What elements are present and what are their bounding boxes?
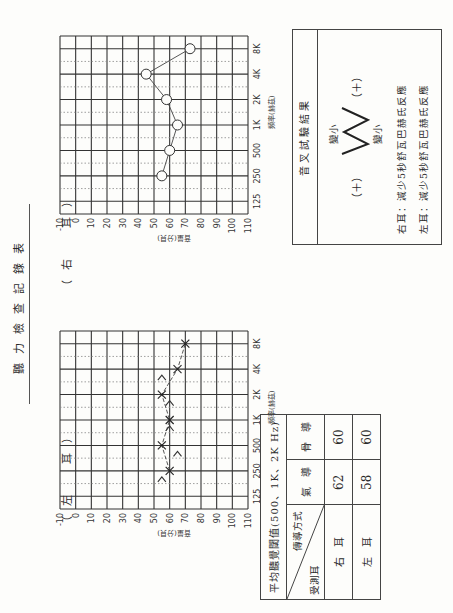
- svg-text:30: 30: [119, 513, 128, 523]
- svg-text:2K: 2K: [253, 94, 262, 105]
- svg-text:60: 60: [166, 218, 175, 228]
- svg-text:110: 110: [244, 513, 253, 528]
- svg-text:8K: 8K: [253, 338, 262, 349]
- svg-text:90: 90: [213, 513, 222, 523]
- tuning-fork-title: 音叉試驗結果: [293, 30, 318, 244]
- svg-text:4K: 4K: [253, 68, 262, 79]
- svg-text:125: 125: [253, 194, 262, 209]
- table-title: 平均聽覺閾值(500、1K、2K Hz): [261, 415, 287, 600]
- row-air: 62: [325, 460, 353, 505]
- audiogram-svg: -1001020304050607080901001101252505001K2…: [55, 321, 284, 543]
- svg-text:8K: 8K: [253, 43, 262, 54]
- svg-text:40: 40: [134, 513, 143, 523]
- svg-text:100: 100: [228, 218, 237, 233]
- svg-text:10: 10: [87, 513, 96, 523]
- left-ear-tuning-result: 左耳：減少5秒舒瓦巴赫氏反應: [416, 84, 430, 234]
- plus-left-label: （＋）: [348, 171, 364, 204]
- row-bone: 60: [325, 415, 353, 460]
- col-header-bone: 骨 導: [287, 415, 325, 460]
- svg-text:500: 500: [253, 143, 262, 158]
- svg-text:頻率(赫茲): 頻率(赫茲): [267, 95, 276, 129]
- plus-right-label: （＋）: [348, 71, 364, 104]
- svg-text:250: 250: [253, 168, 262, 183]
- svg-text:1K: 1K: [253, 119, 262, 130]
- col-header-air: 氣 導: [287, 460, 325, 505]
- svg-text:110: 110: [244, 218, 253, 233]
- svg-text:-10: -10: [56, 218, 65, 231]
- tuning-fork-weber-icon: [338, 106, 370, 156]
- audiogram-svg: -1001020304050607080901001101252505001K2…: [55, 26, 284, 248]
- right-ear-audiogram: -1001020304050607080901001101252505001K2…: [55, 26, 284, 248]
- svg-text:80: 80: [197, 218, 206, 228]
- svg-text:4K: 4K: [253, 363, 262, 374]
- svg-text:30: 30: [119, 218, 128, 228]
- svg-text:-10: -10: [56, 513, 65, 526]
- svg-text:50: 50: [150, 513, 159, 523]
- svg-text:10: 10: [87, 218, 96, 228]
- svg-text:90: 90: [213, 218, 222, 228]
- svg-text:80: 80: [197, 513, 206, 523]
- row-bone: 60: [353, 415, 381, 460]
- svg-text:100: 100: [228, 513, 237, 528]
- svg-text:70: 70: [181, 218, 190, 228]
- svg-text:40: 40: [134, 218, 143, 228]
- left-ear-audiogram: -1001020304050607080901001101252505001K2…: [55, 321, 284, 543]
- svg-text:2K: 2K: [253, 389, 262, 400]
- svg-text:音量(分貝): 音量(分貝): [157, 529, 191, 538]
- table-row: 左 耳 58 60: [353, 415, 381, 600]
- diagonal-header-cell: 傳導方式 受測耳: [287, 505, 325, 600]
- tuning-fork-body: 變小 （＋） （＋） 變小 右耳：減少5秒舒瓦巴赫氏反應 左耳：減少5秒舒瓦巴赫…: [318, 30, 441, 244]
- smaller-bottom-label: 變小: [370, 124, 384, 144]
- svg-text:音量(分貝): 音量(分貝): [157, 234, 191, 243]
- diag-top-label: 傳導方式: [290, 511, 304, 551]
- row-ear: 右 耳: [325, 505, 353, 600]
- table-row: 右 耳 62 60: [325, 415, 353, 600]
- row-air: 58: [353, 460, 381, 505]
- average-threshold-table: 平均聽覺閾值(500、1K、2K Hz) 傳導方式 受測耳 氣 導 骨 導 右 …: [260, 414, 381, 600]
- right-ear-tuning-result: 右耳：減少5秒舒瓦巴赫氏反應: [394, 84, 408, 234]
- svg-text:70: 70: [181, 513, 190, 523]
- svg-text:50: 50: [150, 218, 159, 228]
- audiometry-record-form: 聽力檢查記錄表 （左 耳） （右 耳） -1001020304050607080…: [0, 0, 453, 613]
- svg-text:20: 20: [103, 513, 112, 523]
- svg-text:0: 0: [72, 513, 81, 518]
- svg-text:20: 20: [103, 218, 112, 228]
- page-title: 聽力檢查記錄表: [10, 204, 30, 404]
- tuning-fork-result-box: 音叉試驗結果 變小 （＋） （＋） 變小 右耳：減少5秒舒瓦巴赫氏反應 左耳：減…: [292, 29, 442, 245]
- svg-text:0: 0: [72, 218, 81, 223]
- row-ear: 左 耳: [353, 505, 381, 600]
- diag-bottom-label: 受測耳: [307, 565, 321, 595]
- svg-text:60: 60: [166, 513, 175, 523]
